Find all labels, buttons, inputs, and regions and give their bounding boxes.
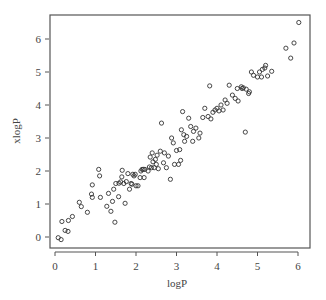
y-tick-label: 4	[36, 99, 42, 111]
data-point	[155, 153, 159, 157]
data-point	[187, 116, 191, 120]
data-point	[156, 167, 160, 171]
data-point	[158, 149, 162, 153]
data-point	[150, 151, 154, 155]
y-axis: 0123456	[36, 33, 50, 243]
data-point	[206, 114, 210, 118]
data-point	[179, 158, 183, 162]
data-point	[209, 117, 213, 121]
x-tick-label: 3	[174, 260, 180, 272]
y-axis-title: xlogP	[10, 118, 22, 144]
data-point	[297, 20, 301, 24]
data-point	[284, 46, 288, 50]
data-point	[227, 83, 231, 87]
data-point	[70, 214, 74, 218]
data-point	[123, 201, 127, 205]
x-tick-label: 6	[295, 260, 301, 272]
y-tick-label: 3	[36, 132, 42, 144]
data-point	[203, 106, 207, 110]
data-point	[201, 115, 205, 119]
y-tick-label: 6	[36, 33, 42, 45]
data-point	[221, 108, 225, 112]
data-point	[243, 130, 247, 134]
data-point	[183, 139, 187, 143]
y-tick-label: 0	[36, 231, 42, 243]
y-tick-label: 1	[36, 198, 42, 210]
x-tick-label: 5	[255, 260, 261, 272]
data-point	[105, 204, 109, 208]
data-point	[85, 210, 89, 214]
data-point	[208, 84, 212, 88]
data-point	[66, 218, 70, 222]
data-point	[97, 167, 101, 171]
data-point	[60, 219, 64, 223]
data-point	[171, 141, 175, 145]
x-axis-title: logP	[167, 277, 187, 289]
data-point	[170, 136, 174, 140]
data-point	[191, 139, 195, 143]
data-point	[154, 162, 158, 166]
data-point	[189, 124, 193, 128]
data-point	[236, 99, 240, 103]
data-point	[113, 220, 117, 224]
data-point	[98, 195, 102, 199]
y-tick-label: 5	[36, 66, 42, 78]
data-point	[166, 154, 170, 158]
data-point	[179, 128, 183, 132]
x-tick-label: 1	[93, 260, 99, 272]
data-point	[164, 166, 168, 170]
x-tick-label: 0	[52, 260, 58, 272]
x-tick-label: 2	[133, 260, 139, 272]
data-point	[110, 199, 114, 203]
data-point	[197, 136, 201, 140]
data-point	[161, 161, 165, 165]
data-point	[90, 183, 94, 187]
data-point	[270, 69, 274, 73]
data-point	[120, 168, 124, 172]
data-point	[289, 56, 293, 60]
data-point	[264, 63, 268, 67]
data-point	[194, 126, 198, 130]
data-point	[198, 131, 202, 135]
data-point	[79, 205, 83, 209]
data-point	[112, 187, 116, 191]
data-point	[120, 175, 124, 179]
data-point	[127, 187, 131, 191]
data-point	[148, 155, 152, 159]
data-point	[225, 101, 229, 105]
data-point	[153, 157, 157, 161]
y-tick-label: 2	[36, 165, 42, 177]
data-point	[126, 172, 130, 176]
data-point	[162, 151, 166, 155]
x-axis: 0123456	[52, 252, 301, 272]
data-point	[219, 103, 223, 107]
data-points	[56, 20, 301, 241]
data-point	[266, 74, 270, 78]
data-point	[109, 209, 113, 213]
data-point	[117, 195, 121, 199]
data-point	[77, 200, 81, 204]
x-tick-label: 4	[214, 260, 220, 272]
scatter-chart: 0123456 0123456 logP xlogP	[0, 0, 326, 300]
data-point	[106, 191, 110, 195]
data-point	[98, 174, 102, 178]
data-point	[292, 41, 296, 45]
data-point	[159, 121, 163, 125]
data-point	[181, 110, 185, 114]
data-point	[168, 177, 172, 181]
